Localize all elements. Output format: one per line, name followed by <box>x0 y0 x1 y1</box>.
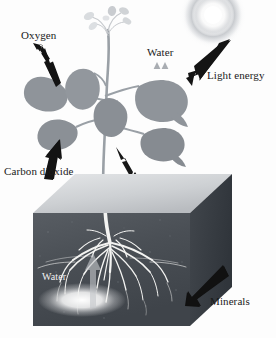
label-water-leaf: Water <box>147 47 174 58</box>
water-glow <box>38 283 126 317</box>
label-light-energy: Light energy <box>207 70 265 81</box>
label-oxygen: Oxygen <box>21 30 56 41</box>
label-minerals: Minerals <box>210 296 250 307</box>
label-water-soil: Water <box>42 272 66 282</box>
leaf-top-center <box>65 69 100 110</box>
water-vapor-arrow-left <box>154 62 161 79</box>
sun-icon <box>179 0 247 49</box>
leaf-center <box>94 98 128 137</box>
label-carbon-dioxide: Carbon dioxide <box>4 166 74 177</box>
soil-block <box>33 174 232 326</box>
water-vapor-arrow-right <box>162 62 169 79</box>
photosynthesis-diagram: Oxygen Water Light energy Carbon dioxide… <box>0 0 276 338</box>
leaf-upper-left <box>24 77 68 112</box>
flower-buds <box>82 5 132 36</box>
